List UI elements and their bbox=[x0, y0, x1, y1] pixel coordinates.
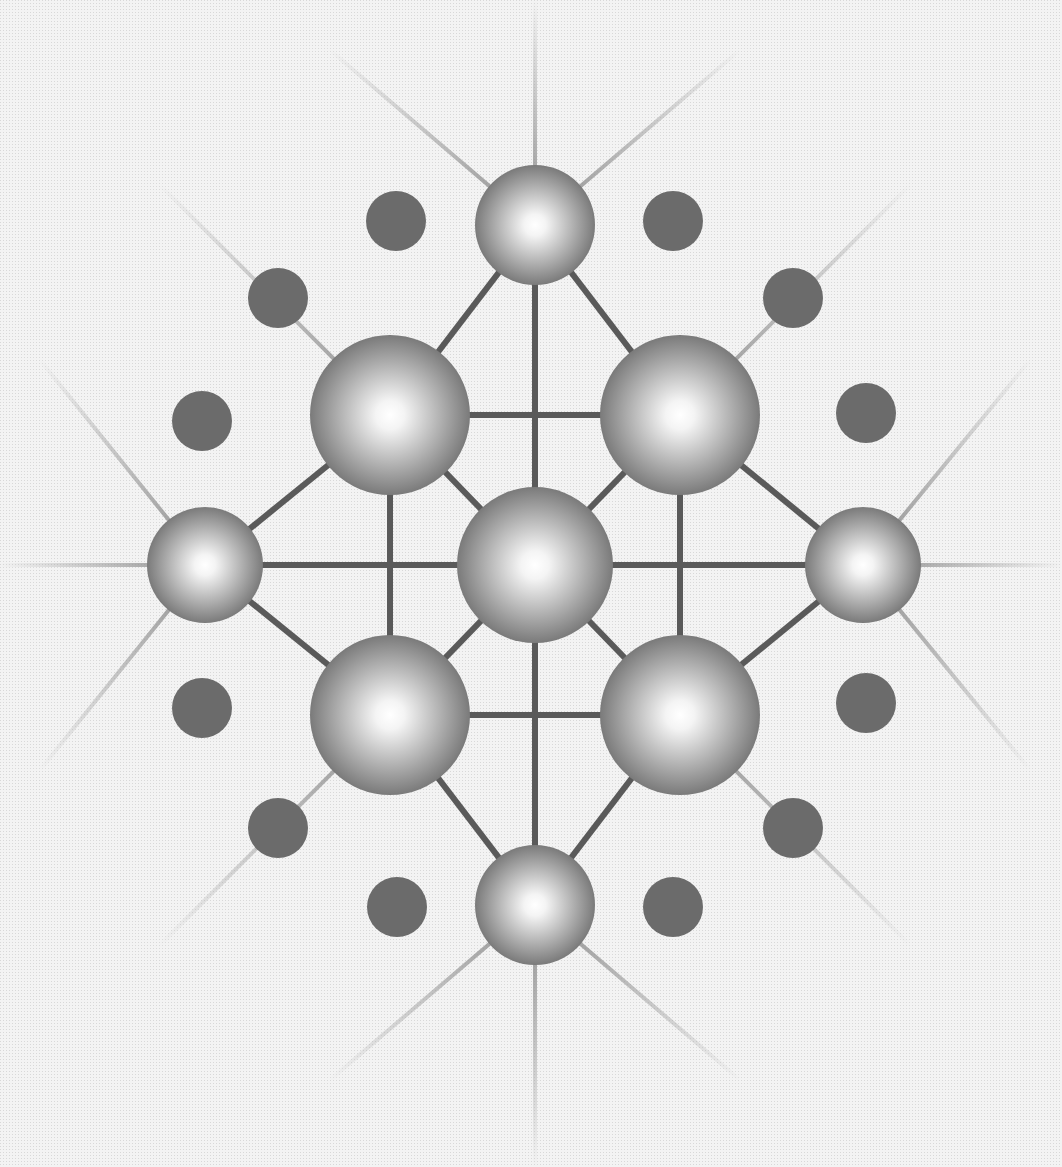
small-atom-dot bbox=[763, 268, 823, 328]
sphere-upper-left bbox=[310, 335, 470, 495]
small-atom-dot bbox=[366, 191, 426, 251]
sphere-top bbox=[475, 165, 595, 285]
sphere-upper-right bbox=[600, 335, 760, 495]
sphere-bottom bbox=[475, 845, 595, 965]
lattice-svg bbox=[0, 0, 1062, 1167]
small-atom-dot bbox=[836, 383, 896, 443]
lattice-diagram bbox=[0, 0, 1062, 1167]
small-atom-dot bbox=[248, 798, 308, 858]
small-atom-dot bbox=[643, 877, 703, 937]
small-atom-dot bbox=[248, 268, 308, 328]
sphere-right bbox=[805, 507, 921, 623]
small-atom-dot bbox=[172, 391, 232, 451]
small-atom-dot bbox=[763, 798, 823, 858]
sphere-lower-right bbox=[600, 635, 760, 795]
small-atom-dot bbox=[172, 678, 232, 738]
sphere-left bbox=[147, 507, 263, 623]
small-atom-dot bbox=[643, 191, 703, 251]
small-atom-dot bbox=[367, 877, 427, 937]
small-atom-dot bbox=[836, 673, 896, 733]
sphere-lower-left bbox=[310, 635, 470, 795]
sphere-center bbox=[457, 487, 613, 643]
